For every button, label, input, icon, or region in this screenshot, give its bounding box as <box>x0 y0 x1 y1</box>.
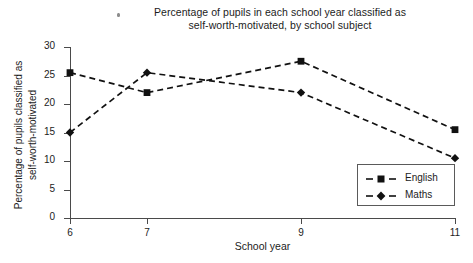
series-line-english <box>70 61 455 129</box>
legend: English Maths <box>357 164 455 206</box>
data-point-maths-9 <box>297 88 305 96</box>
y-axis-title-line-1: Percentage of pupils classified as <box>12 61 26 209</box>
y-tick-label-25: 25 <box>44 69 55 80</box>
scan-artifact-speck <box>117 13 120 17</box>
data-point-maths-11 <box>451 154 459 162</box>
x-tick-6: 6 <box>70 218 71 224</box>
y-axis-title-line-2: self-worth-motivated <box>26 61 40 209</box>
y-tick-label-30: 30 <box>44 40 55 51</box>
data-point-english-9 <box>298 58 305 65</box>
x-tick-label-6: 6 <box>67 227 73 238</box>
legend-marker-maths-icon <box>365 188 397 200</box>
legend-item-english[interactable]: English <box>365 169 438 185</box>
y-tick-label-10: 10 <box>44 154 55 165</box>
chart-page: Percentage of pupils in each school year… <box>0 0 473 263</box>
series-english <box>67 58 459 133</box>
legend-label-english: English <box>405 172 438 183</box>
data-point-english-6 <box>67 69 74 76</box>
legend-item-maths[interactable]: Maths <box>365 186 432 202</box>
y-tick-label-5: 5 <box>49 183 55 194</box>
x-tick-label-7: 7 <box>144 227 150 238</box>
chart-title-line-1: Percentage of pupils in each school year… <box>130 6 430 19</box>
x-axis-title: School year <box>70 240 455 252</box>
chart-title-line-2: self-worth-motivated, by school subject <box>130 19 430 32</box>
legend-marker-english-icon <box>365 171 397 183</box>
y-tick-label-15: 15 <box>44 126 55 137</box>
x-tick-7: 7 <box>147 218 148 224</box>
data-point-english-7 <box>144 89 151 96</box>
series-line-maths <box>70 73 455 158</box>
y-axis-title: Percentage of pupils classified as self-… <box>6 40 46 230</box>
x-tick-11: 11 <box>455 218 456 224</box>
x-tick-9: 9 <box>301 218 302 224</box>
x-tick-label-11: 11 <box>450 227 460 238</box>
series-maths <box>66 68 459 162</box>
chart-title: Percentage of pupils in each school year… <box>130 6 430 32</box>
x-axis-line <box>70 218 455 219</box>
y-tick-label-20: 20 <box>44 97 55 108</box>
legend-label-maths: Maths <box>405 189 432 200</box>
x-tick-label-9: 9 <box>298 227 304 238</box>
data-point-english-11 <box>452 126 459 133</box>
y-tick-label-0: 0 <box>49 211 55 222</box>
